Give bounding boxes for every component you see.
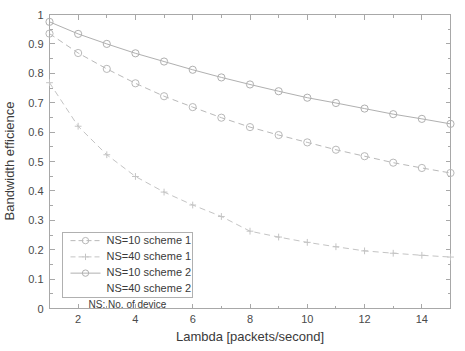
x-axis-title: Lambda [packets/second]: [176, 329, 324, 344]
y-tick-label: 0.2: [28, 244, 43, 256]
x-tick-label: 4: [132, 313, 138, 325]
y-tick-label: 0.7: [28, 97, 43, 109]
y-tick-label: 0: [37, 303, 43, 315]
data-series-group: [46, 18, 454, 260]
chart-legend: NS=10 scheme 1NS=40 scheme 1NS=10 scheme…: [63, 233, 193, 310]
line-chart: 00.10.20.30.40.50.60.70.80.912468101214 …: [0, 0, 465, 351]
series-line: [50, 22, 451, 124]
x-tick-label: 8: [247, 313, 253, 325]
legend-entry-label: NS=10 scheme 1: [107, 234, 192, 246]
data-point-marker: [132, 80, 139, 87]
y-axis-title: Bandwidth efficience: [2, 101, 17, 220]
y-tick-label: 0.3: [28, 214, 43, 226]
legend-note: NS: No. of device: [89, 299, 167, 310]
legend-entry-label: NS=10 scheme 2: [107, 266, 192, 278]
x-tick-label: 10: [301, 313, 313, 325]
series-line: [50, 34, 451, 173]
x-tick-label: 14: [416, 313, 428, 325]
data-point-marker: [103, 65, 110, 72]
y-tick-label: 1: [37, 9, 43, 21]
x-tick-label: 2: [75, 313, 81, 325]
y-tick-label: 0.9: [28, 38, 43, 50]
legend-entry-label: NS=40 scheme 2: [107, 282, 192, 294]
y-tick-label: 0.6: [28, 126, 43, 138]
x-tick-label: 12: [358, 313, 370, 325]
y-tick-label: 0.5: [28, 156, 43, 168]
y-tick-label: 0.8: [28, 67, 43, 79]
x-tick-label: 6: [190, 313, 196, 325]
y-tick-label: 0.4: [28, 185, 43, 197]
chart-figure: 00.10.20.30.40.50.60.70.80.912468101214 …: [0, 0, 465, 351]
legend-entry-label: NS=40 scheme 1: [107, 250, 192, 262]
y-tick-label: 0.1: [28, 273, 43, 285]
